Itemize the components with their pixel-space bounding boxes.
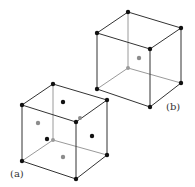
atom-face-top [61, 100, 65, 104]
cube-b-hidden-edge [97, 68, 128, 89]
cube-b-hidden-edge [128, 68, 181, 83]
atom-corner [74, 177, 78, 181]
atom-corner-hidden [126, 66, 130, 70]
atom-corner [20, 159, 24, 163]
label-a: (a) [10, 168, 24, 179]
atom-face-back [45, 137, 49, 141]
atom-corner [148, 105, 152, 109]
atom-corner [95, 87, 99, 91]
label-b: (b) [166, 101, 180, 112]
atom-corner [51, 82, 55, 86]
atom-corner [95, 31, 99, 35]
cube-b-top-face [97, 12, 181, 49]
atom-face-hidden [78, 116, 82, 120]
atom-face-right [90, 134, 94, 138]
atom-corner [179, 26, 183, 30]
cube-a-edge [22, 161, 76, 179]
cube-a-hidden-edge [53, 140, 107, 155]
atom-corner-hidden [51, 138, 55, 142]
atom-corner [148, 47, 152, 51]
atom-corner [74, 120, 78, 124]
atom-face-bottom [61, 155, 65, 159]
atom-body-center [137, 56, 141, 60]
cube-a-edge [76, 155, 107, 179]
cube-b-edge [97, 89, 150, 107]
atom-corner [20, 103, 24, 107]
cube-a: (a) [10, 82, 109, 181]
atom-corner [105, 98, 109, 102]
cube-a-hidden-edge [22, 140, 53, 161]
atom-corner [179, 81, 183, 85]
cube-b: (b) [95, 10, 183, 112]
atom-face-left [36, 121, 40, 125]
atom-corner [105, 153, 109, 157]
atom-corner [126, 10, 130, 14]
crystal-lattice-diagram: (b) (a) [0, 0, 195, 187]
